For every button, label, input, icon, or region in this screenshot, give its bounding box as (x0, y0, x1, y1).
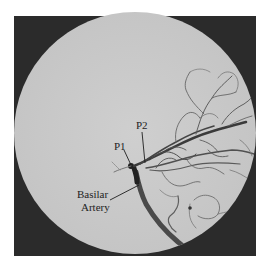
angiogram-figure: P1 P2 Basilar Artery (0, 0, 271, 268)
angiogram-svg: P1 P2 Basilar Artery (0, 0, 271, 268)
p2-label: P2 (136, 119, 148, 131)
p1-label: P1 (114, 140, 126, 152)
imaging-field (14, 12, 256, 254)
basilar-label-line2: Artery (81, 201, 110, 213)
basilar-label-line1: Basilar (77, 188, 108, 200)
